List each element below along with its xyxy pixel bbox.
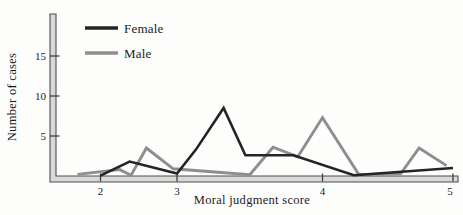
chart-canvas: 5 10 15 2 3 4 5 Number of cases Moral ju… bbox=[0, 0, 463, 215]
x-axis-title: Moral judgment score bbox=[194, 193, 311, 207]
male-legend-label: Male bbox=[124, 46, 152, 61]
x-tick-label-5: 5 bbox=[447, 185, 453, 197]
axes-frame bbox=[50, 14, 458, 182]
y-tick-label-10: 10 bbox=[35, 90, 47, 102]
x-tick-label-2: 2 bbox=[98, 185, 104, 197]
y-tick-label-15: 15 bbox=[35, 50, 47, 62]
moral-judgment-score-chart: 5 10 15 2 3 4 5 Number of cases Moral ju… bbox=[0, 0, 463, 215]
x-tick-label-4: 4 bbox=[320, 185, 326, 197]
y-axis-title: Number of cases bbox=[5, 53, 19, 142]
female-legend-label: Female bbox=[124, 21, 163, 36]
x-tick-label-3: 3 bbox=[174, 185, 180, 197]
y-tick-label-5: 5 bbox=[41, 130, 47, 142]
male-line bbox=[78, 118, 447, 176]
female-line bbox=[101, 108, 454, 176]
